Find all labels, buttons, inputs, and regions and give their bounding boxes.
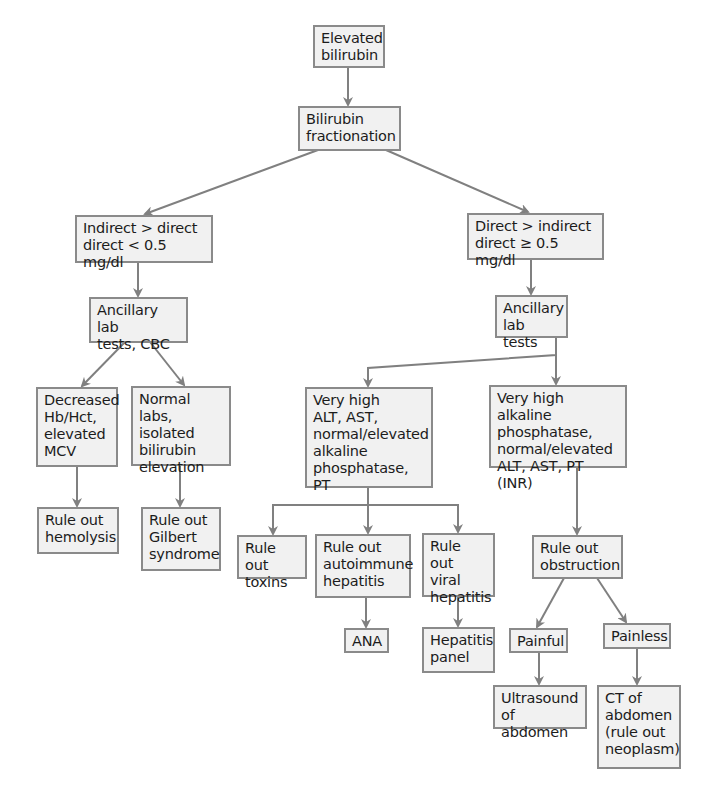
node-label: Direct > indirect direct ≥ 0.5 mg/dl xyxy=(475,218,597,269)
node-label: Decreased Hb/Hct, elevated MCV xyxy=(44,392,111,460)
node-direct-gt-indirect: Direct > indirect direct ≥ 0.5 mg/dl xyxy=(467,213,604,260)
arrow-alt-to-viral xyxy=(368,505,458,532)
node-painless: Painless xyxy=(603,623,671,649)
node-label: ANA xyxy=(352,633,382,650)
node-very-high-alkaline-phosphatase: Very high alkaline phosphatase, normal/e… xyxy=(489,385,627,468)
node-label: Very high alkaline phosphatase, normal/e… xyxy=(497,390,620,492)
arrow-obstruction-to-painful xyxy=(537,578,564,627)
arrow-alt-to-toxins xyxy=(273,487,368,534)
node-label: Rule out obstruction xyxy=(540,540,616,574)
arrow-fractionation-to-indirect xyxy=(145,150,318,214)
node-painful: Painful xyxy=(509,628,568,653)
node-label: Hepatitis panel xyxy=(430,632,488,666)
node-normal-labs: Normal labs, isolated bilirubin elevatio… xyxy=(131,386,231,466)
node-elevated-bilirubin: Elevated bilirubin xyxy=(313,25,385,68)
node-label: CT of abdomen (rule out neoplasm) xyxy=(605,690,674,758)
node-rule-out-toxins: Rule out toxins xyxy=(237,535,307,579)
node-label: Ancillary lab tests xyxy=(503,300,561,351)
node-rule-out-autoimmune: Rule out autoimmune hepatitis xyxy=(315,534,411,598)
node-label: Rule out autoimmune hepatitis xyxy=(323,539,404,590)
node-label: Normal labs, isolated bilirubin elevatio… xyxy=(139,391,224,476)
node-indirect-gt-direct: Indirect > direct direct < 0.5 mg/dl xyxy=(75,215,213,263)
arrow-fractionation-to-direct xyxy=(386,150,528,212)
node-very-high-alt-ast: Very high ALT, AST, normal/elevated alka… xyxy=(305,387,433,488)
node-label: Rule out toxins xyxy=(245,540,300,591)
node-label: Rule out hemolysis xyxy=(45,512,112,546)
node-label: Rule out Gilbert syndrome xyxy=(149,512,214,563)
node-label: Very high ALT, AST, normal/elevated alka… xyxy=(313,392,426,494)
node-ancillary-lab-tests-cbc: Ancillary lab tests, CBC xyxy=(89,297,188,343)
node-label: Elevated bilirubin xyxy=(321,30,378,64)
node-rule-out-gilbert: Rule out Gilbert syndrome xyxy=(141,507,221,571)
node-rule-out-hemolysis: Rule out hemolysis xyxy=(37,507,119,554)
node-ancillary-lab-tests: Ancillary lab tests xyxy=(495,295,568,338)
node-ct-abdomen: CT of abdomen (rule out neoplasm) xyxy=(597,685,681,769)
node-label: Painless xyxy=(611,628,664,645)
node-ultrasound-abdomen: Ultrasound of abdomen xyxy=(493,685,587,729)
node-label: Painful xyxy=(517,633,561,650)
node-rule-out-viral: Rule out viral hepatitis xyxy=(422,533,495,597)
node-label: Rule out viral hepatitis xyxy=(430,538,488,606)
node-ana: ANA xyxy=(344,628,389,653)
node-decreased-hb-hct: Decreased Hb/Hct, elevated MCV xyxy=(36,387,118,467)
node-hepatitis-panel: Hepatitis panel xyxy=(422,627,495,673)
node-label: Ancillary lab tests, CBC xyxy=(97,302,181,353)
node-label: Ultrasound of abdomen xyxy=(501,690,580,741)
node-label: Indirect > direct direct < 0.5 mg/dl xyxy=(83,220,206,271)
arrow-obstruction-to-painless xyxy=(597,578,626,622)
node-label: Bilirubin fractionation xyxy=(306,111,394,145)
node-bilirubin-fractionation: Bilirubin fractionation xyxy=(298,106,401,151)
node-rule-out-obstruction: Rule out obstruction xyxy=(532,535,623,579)
